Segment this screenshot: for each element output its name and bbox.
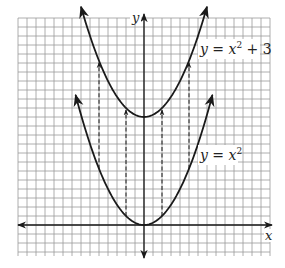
parabola-shift-chart: y = x2 + 3 y = x2 y x (0, 0, 285, 268)
y-axis-label: y (131, 10, 140, 25)
series-label-upper: y = x2 + 3 (199, 40, 272, 57)
x-axis-label: x (265, 228, 273, 243)
series-label-lower: y = x2 (199, 146, 242, 163)
